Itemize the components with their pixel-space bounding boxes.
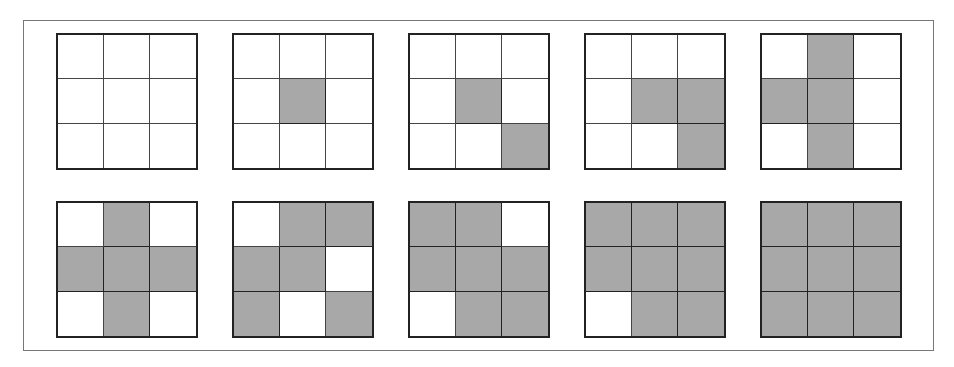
- empty-cell: [854, 124, 900, 168]
- empty-cell: [762, 124, 808, 168]
- shaded-cell: [104, 247, 150, 291]
- shaded-cell: [502, 292, 548, 336]
- shaded-cell: [632, 247, 678, 291]
- empty-cell: [58, 35, 104, 79]
- shaded-cell: [502, 247, 548, 291]
- empty-cell: [456, 124, 502, 168]
- shaded-cell: [586, 247, 632, 291]
- shaded-cell: [326, 203, 372, 247]
- grid-3: [408, 33, 550, 170]
- empty-cell: [502, 35, 548, 79]
- empty-cell: [150, 35, 196, 79]
- shaded-cell: [854, 292, 900, 336]
- shaded-cell: [808, 124, 854, 168]
- shaded-cell: [150, 247, 196, 291]
- shaded-cell: [854, 203, 900, 247]
- shaded-cell: [410, 203, 456, 247]
- shaded-cell: [104, 292, 150, 336]
- shaded-cell: [456, 79, 502, 123]
- empty-cell: [678, 35, 724, 79]
- empty-cell: [410, 124, 456, 168]
- empty-cell: [410, 79, 456, 123]
- shaded-cell: [456, 292, 502, 336]
- grid-1: [56, 33, 198, 170]
- empty-cell: [280, 35, 326, 79]
- empty-cell: [410, 292, 456, 336]
- shaded-cell: [762, 203, 808, 247]
- empty-cell: [502, 203, 548, 247]
- empty-cell: [234, 203, 280, 247]
- shaded-cell: [410, 247, 456, 291]
- shaded-cell: [808, 79, 854, 123]
- empty-cell: [586, 124, 632, 168]
- empty-cell: [104, 35, 150, 79]
- empty-cell: [586, 35, 632, 79]
- empty-cell: [326, 124, 372, 168]
- empty-cell: [762, 35, 808, 79]
- shaded-cell: [586, 203, 632, 247]
- shaded-cell: [280, 247, 326, 291]
- shaded-cell: [762, 292, 808, 336]
- shaded-cell: [678, 203, 724, 247]
- empty-cell: [150, 79, 196, 123]
- empty-cell: [586, 79, 632, 123]
- empty-cell: [58, 79, 104, 123]
- grid-6: [56, 201, 198, 338]
- shaded-cell: [234, 247, 280, 291]
- empty-cell: [456, 35, 502, 79]
- empty-cell: [586, 292, 632, 336]
- shaded-cell: [104, 203, 150, 247]
- grid-8: [408, 201, 550, 338]
- empty-cell: [326, 35, 372, 79]
- empty-cell: [326, 79, 372, 123]
- shaded-cell: [502, 124, 548, 168]
- shaded-cell: [854, 247, 900, 291]
- empty-cell: [410, 35, 456, 79]
- shaded-cell: [456, 247, 502, 291]
- shaded-cell: [678, 247, 724, 291]
- empty-cell: [234, 124, 280, 168]
- empty-cell: [280, 292, 326, 336]
- shaded-cell: [762, 79, 808, 123]
- empty-cell: [150, 203, 196, 247]
- grid-2: [232, 33, 374, 170]
- grid-10: [760, 201, 902, 338]
- shaded-cell: [632, 79, 678, 123]
- empty-cell: [632, 35, 678, 79]
- grid-4: [584, 33, 726, 170]
- empty-cell: [104, 124, 150, 168]
- shaded-cell: [762, 247, 808, 291]
- shaded-cell: [678, 124, 724, 168]
- empty-cell: [150, 292, 196, 336]
- empty-cell: [104, 79, 150, 123]
- shaded-cell: [808, 292, 854, 336]
- grid-7: [232, 201, 374, 338]
- shaded-cell: [632, 292, 678, 336]
- shaded-cell: [808, 203, 854, 247]
- shaded-cell: [678, 79, 724, 123]
- shaded-cell: [326, 292, 372, 336]
- shaded-cell: [632, 203, 678, 247]
- empty-cell: [326, 247, 372, 291]
- shaded-cell: [280, 203, 326, 247]
- empty-cell: [854, 79, 900, 123]
- empty-cell: [234, 35, 280, 79]
- empty-cell: [234, 79, 280, 123]
- grid-9: [584, 201, 726, 338]
- empty-cell: [150, 124, 196, 168]
- empty-cell: [502, 79, 548, 123]
- empty-cell: [280, 124, 326, 168]
- shaded-cell: [280, 79, 326, 123]
- grid-5: [760, 33, 902, 170]
- shaded-cell: [456, 203, 502, 247]
- shaded-cell: [234, 292, 280, 336]
- empty-cell: [632, 124, 678, 168]
- shaded-cell: [678, 292, 724, 336]
- empty-cell: [58, 124, 104, 168]
- shaded-cell: [58, 247, 104, 291]
- shaded-cell: [808, 247, 854, 291]
- empty-cell: [58, 203, 104, 247]
- empty-cell: [854, 35, 900, 79]
- shaded-cell: [808, 35, 854, 79]
- empty-cell: [58, 292, 104, 336]
